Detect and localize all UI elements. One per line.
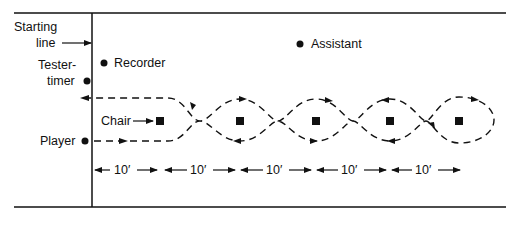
recorder-label: Recorder — [114, 56, 165, 70]
distance-label: 10′ — [114, 163, 130, 177]
path-arrow-icon — [233, 138, 241, 144]
path-arrow-icon — [428, 122, 435, 129]
assistant-label: Assistant — [311, 37, 362, 51]
distance-label: 10′ — [415, 163, 431, 177]
starting-line-label: Starting — [14, 20, 57, 34]
path-arrow-icon — [471, 96, 479, 102]
path-arrow-icon — [381, 97, 389, 103]
diagram-canvas — [0, 0, 518, 227]
path-arrow-icon — [80, 95, 89, 101]
player-label: Player — [40, 134, 75, 148]
chair-icon — [156, 117, 164, 125]
tester-timer-label: Tester- — [38, 58, 76, 72]
recorder-dot — [101, 60, 108, 67]
tester-timer-label-2: timer — [47, 74, 75, 88]
chair-icon — [312, 117, 320, 125]
path-arrow-icon — [310, 138, 318, 144]
tester-timer-dot — [84, 78, 91, 85]
assistant-dot — [297, 41, 304, 48]
running-path — [80, 97, 494, 143]
chair-icon — [386, 117, 394, 125]
path-arrow-icon — [325, 97, 333, 103]
distance-label: 10′ — [341, 163, 357, 177]
path-arrow-icon — [239, 96, 247, 102]
distance-label: 10′ — [266, 163, 282, 177]
player-dot — [82, 138, 89, 145]
distance-label: 10′ — [190, 163, 206, 177]
path-arrow-icon — [119, 138, 128, 144]
chair-icon — [455, 117, 463, 125]
path-arrow-icon — [190, 102, 196, 110]
chair-label: Chair — [101, 114, 131, 128]
chair-icon — [236, 117, 244, 125]
path-arrow-icon — [387, 138, 395, 144]
starting-line-label-2: line — [36, 36, 55, 50]
